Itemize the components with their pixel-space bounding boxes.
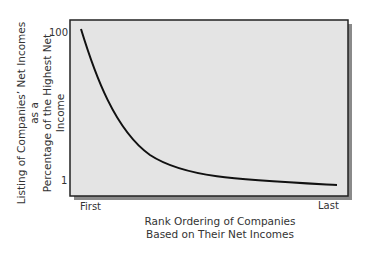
x-axis-label-line1: Rank Ordering of Companies <box>120 215 320 228</box>
x-tick-first: First <box>80 201 101 212</box>
x-axis-label: Rank Ordering of Companies Based on Thei… <box>120 215 320 241</box>
y-tick-100: 100 <box>49 27 68 38</box>
y-axis-label-line1: Listing of Companies’ Net Incomes as a <box>15 21 41 206</box>
y-axis-label: Listing of Companies’ Net Incomes as a P… <box>15 21 51 206</box>
x-axis-label-line2: Based on Their Net Incomes <box>120 228 320 241</box>
y-tick-1: 1 <box>61 175 67 186</box>
x-tick-last: Last <box>318 200 339 211</box>
